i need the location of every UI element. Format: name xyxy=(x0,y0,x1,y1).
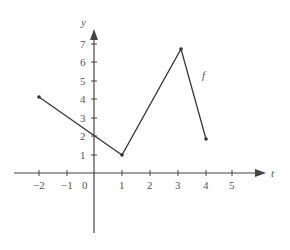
x-tick-label: 5 xyxy=(229,179,235,191)
y-tick-label: 2 xyxy=(80,130,86,142)
data-point xyxy=(37,95,41,99)
data-point xyxy=(120,153,124,157)
x-tick-label: 0 xyxy=(82,179,88,191)
x-tick-label: 3 xyxy=(175,179,181,191)
data-point xyxy=(179,47,183,51)
endpoints xyxy=(37,47,208,157)
x-tick-label: 2 xyxy=(147,179,153,191)
x-tick-label: 4 xyxy=(203,179,209,191)
y-axis-label: y xyxy=(80,16,86,28)
y-tick-label: 4 xyxy=(80,93,86,105)
data-point xyxy=(204,137,208,141)
y-tick-label: 3 xyxy=(80,112,86,124)
x-tick-label: 1 xyxy=(119,179,125,191)
x-tick-label: −1 xyxy=(61,179,73,191)
y-tick-label: 6 xyxy=(80,56,86,68)
x-tick-label: −2 xyxy=(33,179,45,191)
function-f-line xyxy=(39,49,206,155)
chart: t y −2 −1 0 1 2 3 4 5 1 2 3 4 5 6 7 xyxy=(0,0,290,250)
y-tick-label: 1 xyxy=(80,149,86,161)
x-axis-arrow-icon xyxy=(255,169,266,177)
y-tick-label: 7 xyxy=(80,38,86,50)
y-tick-label: 5 xyxy=(80,75,86,87)
curve-label: f xyxy=(202,69,207,81)
x-axis-label: t xyxy=(271,167,275,179)
y-axis-arrow-icon xyxy=(90,29,98,40)
